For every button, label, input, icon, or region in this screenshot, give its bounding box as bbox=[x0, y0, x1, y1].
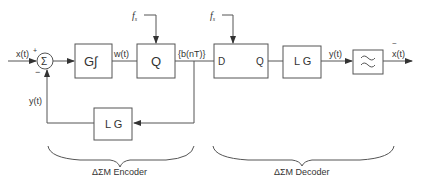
flipflop-d-label: D bbox=[218, 56, 225, 67]
output-label: x(t) bbox=[392, 49, 405, 59]
feedback-y-label: y(t) bbox=[29, 96, 42, 106]
bitstream-label: {b(nT)} bbox=[178, 49, 206, 59]
decoder-brace bbox=[213, 146, 394, 166]
fs-clock-line-1 bbox=[144, 15, 156, 43]
encoder-brace bbox=[48, 146, 194, 167]
decoder-lg-label: L G bbox=[294, 55, 311, 67]
delta-sigma-diagram: x(t) + − Σ G∫ w(t) Q fs fs {b(nT)} D Q L… bbox=[0, 0, 424, 190]
fs-clock-line-2 bbox=[222, 15, 233, 43]
integrator-label: G∫ bbox=[84, 54, 99, 69]
quantizer-label: Q bbox=[151, 54, 161, 69]
flipflop-q-label: Q bbox=[256, 56, 264, 67]
input-label: x(t) bbox=[16, 49, 29, 59]
output-tilde: ~ bbox=[392, 39, 397, 48]
plus-sign: + bbox=[33, 47, 37, 54]
decoder-y-label: y(t) bbox=[329, 49, 342, 59]
feedback-lg-label: L G bbox=[105, 118, 122, 130]
encoder-caption: ΔΣM Encoder bbox=[92, 167, 147, 177]
decoder-caption: ΔΣM Decoder bbox=[274, 167, 330, 177]
sum-symbol: Σ bbox=[41, 56, 47, 67]
minus-sign: − bbox=[35, 67, 40, 77]
fs-label-1: fs bbox=[132, 10, 138, 22]
lowpass-filter-block bbox=[353, 50, 383, 74]
w-label: w(t) bbox=[113, 49, 129, 59]
fs-label-2: fs bbox=[210, 10, 216, 22]
